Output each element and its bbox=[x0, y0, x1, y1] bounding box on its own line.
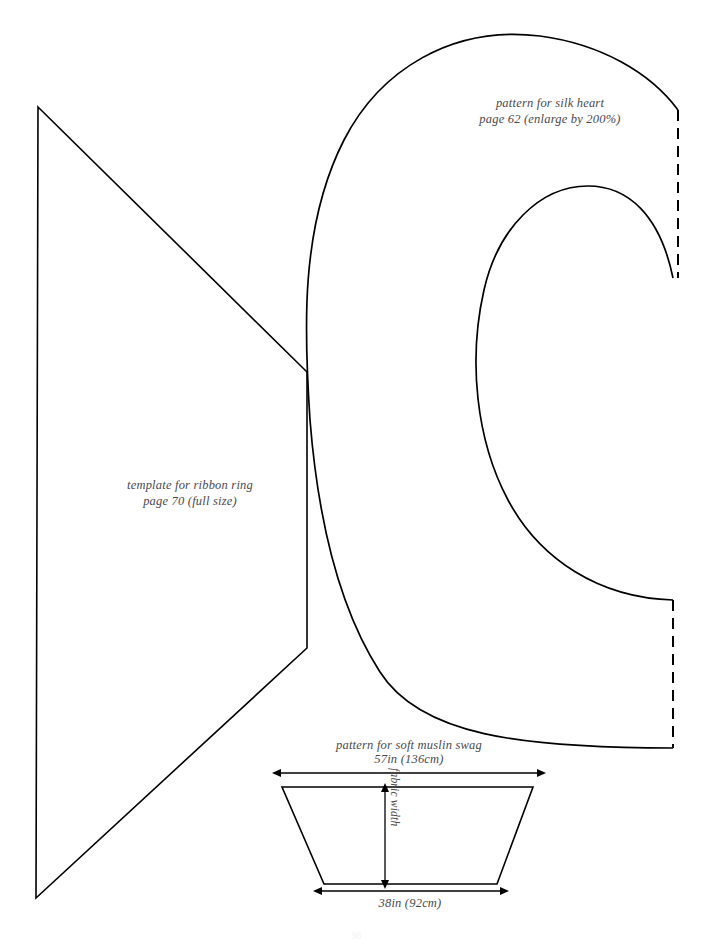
silk-heart-inner-curve bbox=[476, 186, 673, 600]
top-dimension-text: 57in (136cm) bbox=[288, 752, 530, 768]
silk-heart-outer-curve bbox=[306, 34, 678, 748]
muslin-swag-bottom-dimension-label: 38in (92cm) bbox=[315, 896, 505, 912]
fabric-width-text: fabric width bbox=[388, 751, 402, 843]
muslin-swag-top-dimension-label: 57in (136cm) bbox=[288, 752, 530, 768]
fabric-width-dimension-label: fabric width bbox=[388, 751, 402, 843]
pattern-vector-layer bbox=[0, 0, 713, 948]
pattern-sheet-page: pattern for silk heart page 62 (enlarge … bbox=[0, 0, 713, 948]
page-number: 96 bbox=[0, 930, 713, 941]
silk-heart-pattern-label: pattern for silk heart page 62 (enlarge … bbox=[430, 96, 670, 127]
ribbon-ring-label-line2: page 70 (full size) bbox=[78, 494, 302, 510]
silk-heart-label-line2: page 62 (enlarge by 200%) bbox=[430, 112, 670, 128]
muslin-swag-trapezoid-shape bbox=[282, 787, 533, 884]
ribbon-ring-template-label: template for ribbon ring page 70 (full s… bbox=[78, 478, 302, 509]
ribbon-ring-label-line1: template for ribbon ring bbox=[78, 478, 302, 494]
silk-heart-label-line1: pattern for silk heart bbox=[430, 96, 670, 112]
bottom-dimension-text: 38in (92cm) bbox=[315, 896, 505, 912]
